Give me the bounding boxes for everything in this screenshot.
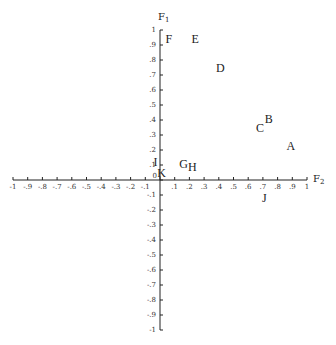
x-tick-label: .2 bbox=[186, 183, 193, 191]
y-tick-label: .4 bbox=[149, 116, 156, 124]
y-tick-label: -1 bbox=[149, 326, 156, 334]
axes: -1-.9-.8-.7-.6-.5-.4-.3-.2-.1.1.2.3.4.5.… bbox=[10, 26, 310, 334]
factor-plot: -1-.9-.8-.7-.6-.5-.4-.3-.2-.1.1.2.3.4.5.… bbox=[0, 0, 336, 345]
y-tick-label: .8 bbox=[149, 56, 156, 64]
y-tick-label: -.5 bbox=[147, 251, 156, 259]
y-tick-label: -.1 bbox=[147, 191, 156, 199]
point-k: K bbox=[157, 166, 166, 180]
x-tick-label: .3 bbox=[201, 183, 208, 191]
y-tick-label: .9 bbox=[149, 41, 156, 49]
x-tick-label: -.4 bbox=[97, 183, 107, 191]
point-h: H bbox=[188, 160, 197, 174]
y-axis-title: F1 bbox=[158, 11, 169, 24]
y-tick-label: -.7 bbox=[147, 281, 156, 289]
y-tick-label: -.6 bbox=[147, 266, 157, 274]
x-tick-label: -.2 bbox=[126, 183, 135, 191]
x-tick-label: .4 bbox=[215, 183, 222, 191]
x-tick-label: -.3 bbox=[111, 183, 120, 191]
x-tick-label: -.1 bbox=[141, 183, 150, 191]
point-j: J bbox=[262, 191, 267, 205]
x-tick-label: .1 bbox=[171, 183, 178, 191]
y-tick-label: -.3 bbox=[147, 221, 156, 229]
point-c: C bbox=[256, 121, 264, 135]
y-tick-label: .3 bbox=[149, 131, 156, 139]
y-tick-label: -.8 bbox=[147, 296, 156, 304]
x-tick-label: .8 bbox=[274, 183, 281, 191]
y-tick-label: .6 bbox=[149, 86, 156, 94]
point-a: A bbox=[286, 139, 295, 153]
x-tick-label: .9 bbox=[289, 183, 296, 191]
point-e: E bbox=[192, 32, 199, 46]
y-tick-label: -.9 bbox=[147, 311, 156, 319]
y-tick-label: .2 bbox=[149, 146, 156, 154]
y-tick-label: -.2 bbox=[147, 206, 156, 214]
x-tick-label: .7 bbox=[260, 183, 267, 191]
point-b: B bbox=[265, 112, 273, 126]
y-tick-label: 1 bbox=[152, 26, 156, 34]
x-axis-title: F2 bbox=[313, 173, 324, 186]
y-tick-label: -.4 bbox=[147, 236, 157, 244]
x-tick-label: .5 bbox=[230, 183, 237, 191]
x-tick-label: -.9 bbox=[23, 183, 32, 191]
point-f: F bbox=[165, 32, 172, 46]
x-tick-label: -.7 bbox=[53, 183, 62, 191]
x-tick-label: -.5 bbox=[82, 183, 91, 191]
y-tick-label: .7 bbox=[149, 71, 156, 79]
point-g: G bbox=[179, 157, 188, 171]
point-d: D bbox=[216, 61, 225, 75]
x-tick-label: -.6 bbox=[67, 183, 77, 191]
x-tick-label: -1 bbox=[10, 183, 17, 191]
x-tick-label: .6 bbox=[245, 183, 252, 191]
y-tick-label: .5 bbox=[149, 101, 156, 109]
x-tick-label: -.8 bbox=[38, 183, 47, 191]
x-tick-label: 1 bbox=[305, 183, 309, 191]
